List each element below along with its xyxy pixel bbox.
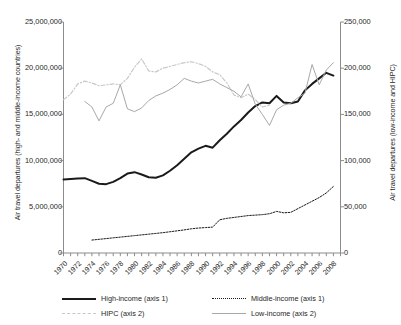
series-line-high-income-axis-1	[64, 73, 334, 184]
legend-label: High-income (axis 1)	[101, 294, 168, 303]
legend-label: Low-income (axis 2)	[251, 309, 316, 318]
chart-legend: High-income (axis 1)Middle-income (axis …	[62, 291, 362, 321]
legend-item[interactable]: Middle-income (axis 1)	[212, 294, 362, 303]
legend-swatch-icon	[62, 313, 96, 314]
series-group	[64, 59, 334, 240]
series-line-hipc-axis-2	[64, 59, 270, 107]
chart-container: Air travel departures (high- and middle-…	[0, 0, 401, 325]
series-line-middle-income-axis-1	[92, 186, 333, 240]
plot-area	[0, 0, 401, 325]
legend-item[interactable]: HIPC (axis 2)	[62, 309, 212, 318]
legend-label: HIPC (axis 2)	[101, 309, 144, 318]
legend-swatch-icon	[212, 298, 246, 299]
legend-item[interactable]: High-income (axis 1)	[62, 294, 212, 303]
legend-label: Middle-income (axis 1)	[251, 294, 324, 303]
series-line-low-income-axis-2	[85, 63, 334, 126]
legend-swatch-icon	[212, 313, 246, 314]
axes-group	[60, 22, 344, 256]
legend-swatch-icon	[62, 298, 96, 300]
legend-item[interactable]: Low-income (axis 2)	[212, 309, 362, 318]
